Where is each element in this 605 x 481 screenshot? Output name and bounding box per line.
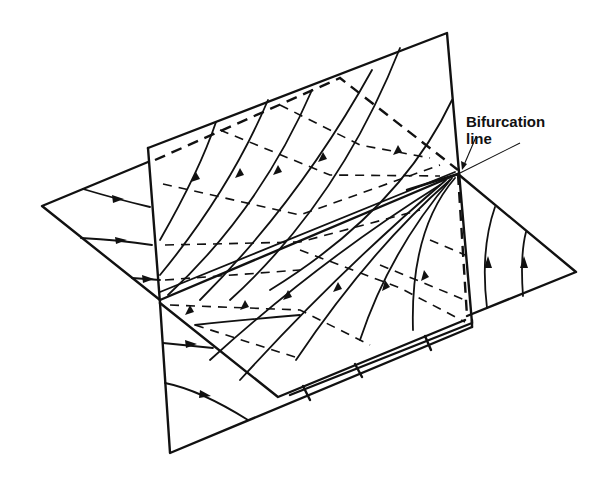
bifurcation-label-line2: line xyxy=(466,130,545,147)
streamlines-vertical xyxy=(160,48,455,380)
arrowheads-vertical xyxy=(185,145,429,315)
bifurcation-diagram xyxy=(0,0,605,481)
bifurcation-label: Bifurcation line xyxy=(466,113,545,147)
streamlines-right-wing xyxy=(485,207,526,308)
bifurcation-label-line1: Bifurcation xyxy=(466,113,545,130)
streamlines-left-wing xyxy=(81,189,160,280)
streamlines-lower xyxy=(163,315,300,420)
arrowheads-left-wing xyxy=(112,195,154,283)
